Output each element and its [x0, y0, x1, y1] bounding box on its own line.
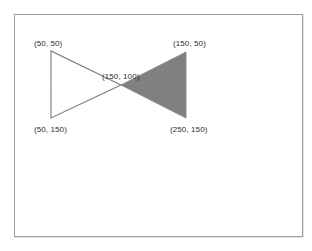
vertex-label-top-right: (150, 50) [173, 39, 206, 49]
filled-triangle-shape [121, 52, 186, 118]
unfilled-triangle-shape [51, 51, 121, 118]
vertex-label-bottom-left: (50, 150) [34, 125, 67, 135]
vertex-label-apex: (150, 100) [102, 72, 139, 82]
diagram-canvas: (50, 50) (150, 50) (150, 100) (50, 150) … [14, 14, 303, 237]
vertex-label-bottom-right: (250, 150) [170, 125, 207, 135]
vertex-label-top-left: (50, 50) [34, 39, 62, 49]
